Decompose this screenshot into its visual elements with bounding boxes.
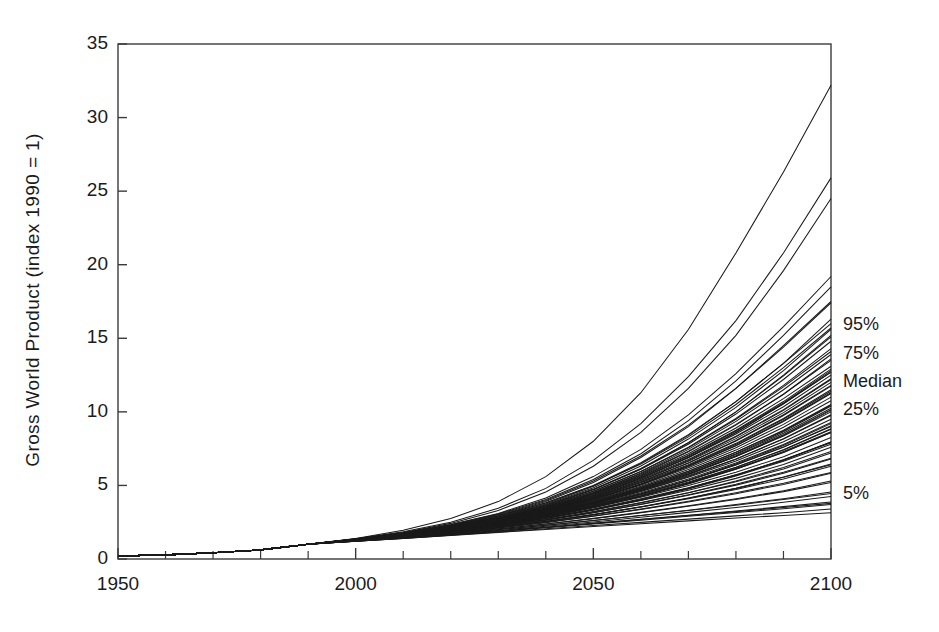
x-tick-label: 1950	[78, 573, 158, 595]
annotation-label: 75%	[843, 343, 879, 364]
series-line	[118, 178, 831, 556]
series-line	[118, 459, 831, 556]
annotation-label: Median	[843, 371, 902, 392]
series-line	[118, 85, 831, 556]
y-tick-label: 25	[62, 179, 108, 201]
y-tick-label: 35	[62, 32, 108, 54]
x-tick-label: 2100	[791, 573, 871, 595]
x-tick-label: 2050	[553, 573, 633, 595]
y-tick-label: 20	[62, 253, 108, 275]
y-tick-label: 15	[62, 326, 108, 348]
x-axis-major-ticks	[118, 548, 831, 559]
series-lines	[118, 85, 831, 556]
annotation-label: 25%	[843, 399, 879, 420]
x-tick-label: 2000	[316, 573, 396, 595]
y-tick-label: 10	[62, 400, 108, 422]
chart-figure: Gross World Product (index 1990 = 1) 051…	[0, 0, 939, 632]
y-tick-label: 0	[62, 547, 108, 569]
y-tick-label: 5	[62, 473, 108, 495]
x-axis-minor-ticks	[166, 551, 784, 559]
series-line	[118, 303, 831, 556]
y-axis-major-ticks	[118, 44, 127, 559]
series-line	[118, 424, 831, 556]
series-line	[118, 199, 831, 557]
y-tick-label: 30	[62, 106, 108, 128]
series-line	[118, 429, 831, 556]
plot-area	[0, 0, 939, 632]
annotation-label: 95%	[843, 314, 879, 335]
series-line	[118, 276, 831, 556]
annotation-label: 5%	[843, 483, 869, 504]
